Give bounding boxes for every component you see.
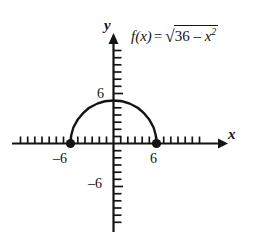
y-tick-label-negative-six: –6 <box>88 177 102 191</box>
y-axis <box>109 33 119 232</box>
curve-endpoint-right <box>152 139 161 148</box>
radical-expression: √36 – x2 <box>164 25 218 45</box>
function-graph-figure: y x –6 6 6 –6 f(x)=√36 – x2 <box>0 0 254 239</box>
equals-sign-text: = <box>152 28 164 44</box>
radicand-constant-text: 36 <box>175 28 190 44</box>
y-axis-label: y <box>104 18 111 33</box>
radicand-group: 36 – x2 <box>174 25 219 44</box>
x-axis-label: x <box>228 127 236 142</box>
radicand-exponent-text: 2 <box>211 26 216 37</box>
radicand-minus-text: – <box>193 28 201 44</box>
curve-endpoint-left <box>66 139 75 148</box>
y-axis-ticks <box>114 51 124 223</box>
x-tick-label-positive-six: 6 <box>150 152 157 166</box>
function-expression-annotation: f(x)=√36 – x2 <box>131 25 218 45</box>
x-tick-label-negative-six: –6 <box>53 152 67 166</box>
function-name-text: f(x) <box>131 28 152 44</box>
y-tick-label-positive-six: 6 <box>97 87 104 101</box>
